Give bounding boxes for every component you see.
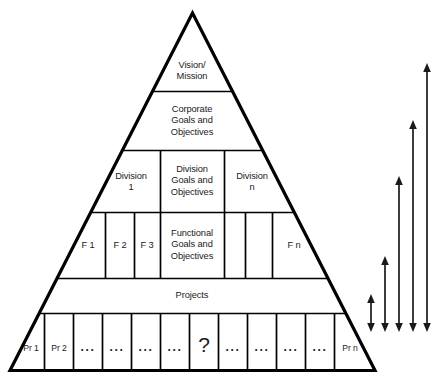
scope-arrow-3	[395, 176, 403, 332]
pyramid-graphics	[0, 0, 447, 377]
pyramid-outline	[10, 13, 375, 371]
scope-arrow-1	[367, 294, 375, 332]
scope-arrow-2	[381, 256, 389, 332]
scope-arrow-4	[409, 120, 417, 332]
pyramid-diagram: Vision/ Mission Corporate Goals and Obje…	[0, 0, 447, 377]
scope-arrow-5	[423, 63, 431, 332]
